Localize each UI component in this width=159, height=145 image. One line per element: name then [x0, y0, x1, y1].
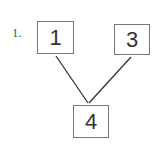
line-top-left-to-bottom — [56, 56, 88, 103]
number-box-top-left: 1 — [37, 21, 74, 54]
line-top-right-to-bottom — [89, 57, 131, 103]
number-box-value: 1 — [49, 25, 61, 51]
number-box-value: 3 — [126, 27, 138, 53]
number-box-top-right: 3 — [114, 24, 150, 55]
number-box-bottom: 4 — [73, 105, 109, 138]
number-box-value: 4 — [85, 109, 97, 135]
